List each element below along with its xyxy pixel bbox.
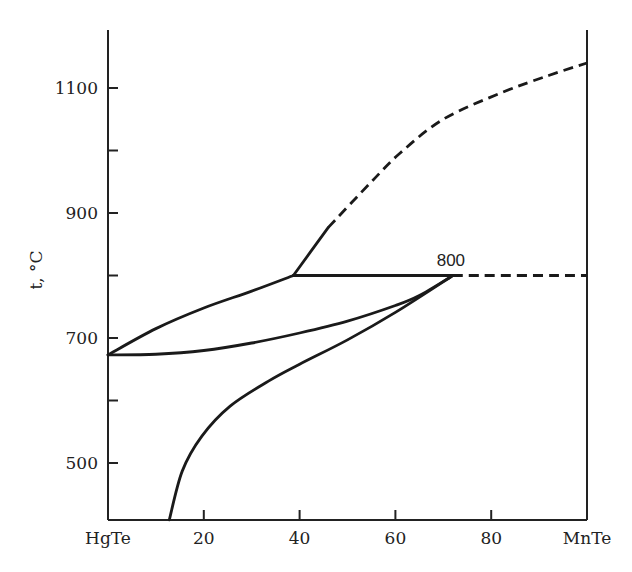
y-tick-label: 1100 xyxy=(55,78,98,98)
curve-liquidus-mnte-side- xyxy=(293,227,328,275)
y-tick-label: 900 xyxy=(66,203,98,223)
curve-solvus xyxy=(169,276,453,520)
curve-liquidus-hgte-side- xyxy=(108,276,293,355)
phase-diagram: 5007009001100HgTe20406080MnTe 800 t, °C xyxy=(0,0,632,572)
y-tick-label: 700 xyxy=(66,328,98,348)
phase-curves xyxy=(108,63,587,520)
x-tick-label: 20 xyxy=(193,528,215,548)
tick-labels: 5007009001100HgTe20406080MnTe xyxy=(55,78,611,548)
y-axis-label: t, °C xyxy=(26,250,46,289)
annotation-800: 800 xyxy=(437,251,465,270)
curve-solidus xyxy=(108,276,453,355)
curve-liquidus-mnte-side-estimated- xyxy=(328,63,587,227)
y-tick-label: 500 xyxy=(66,453,98,473)
x-tick-label: MnTe xyxy=(563,528,611,548)
x-tick-label: 40 xyxy=(289,528,311,548)
x-tick-label: HgTe xyxy=(85,528,131,548)
x-tick-label: 60 xyxy=(385,528,407,548)
x-tick-label: 80 xyxy=(480,528,502,548)
